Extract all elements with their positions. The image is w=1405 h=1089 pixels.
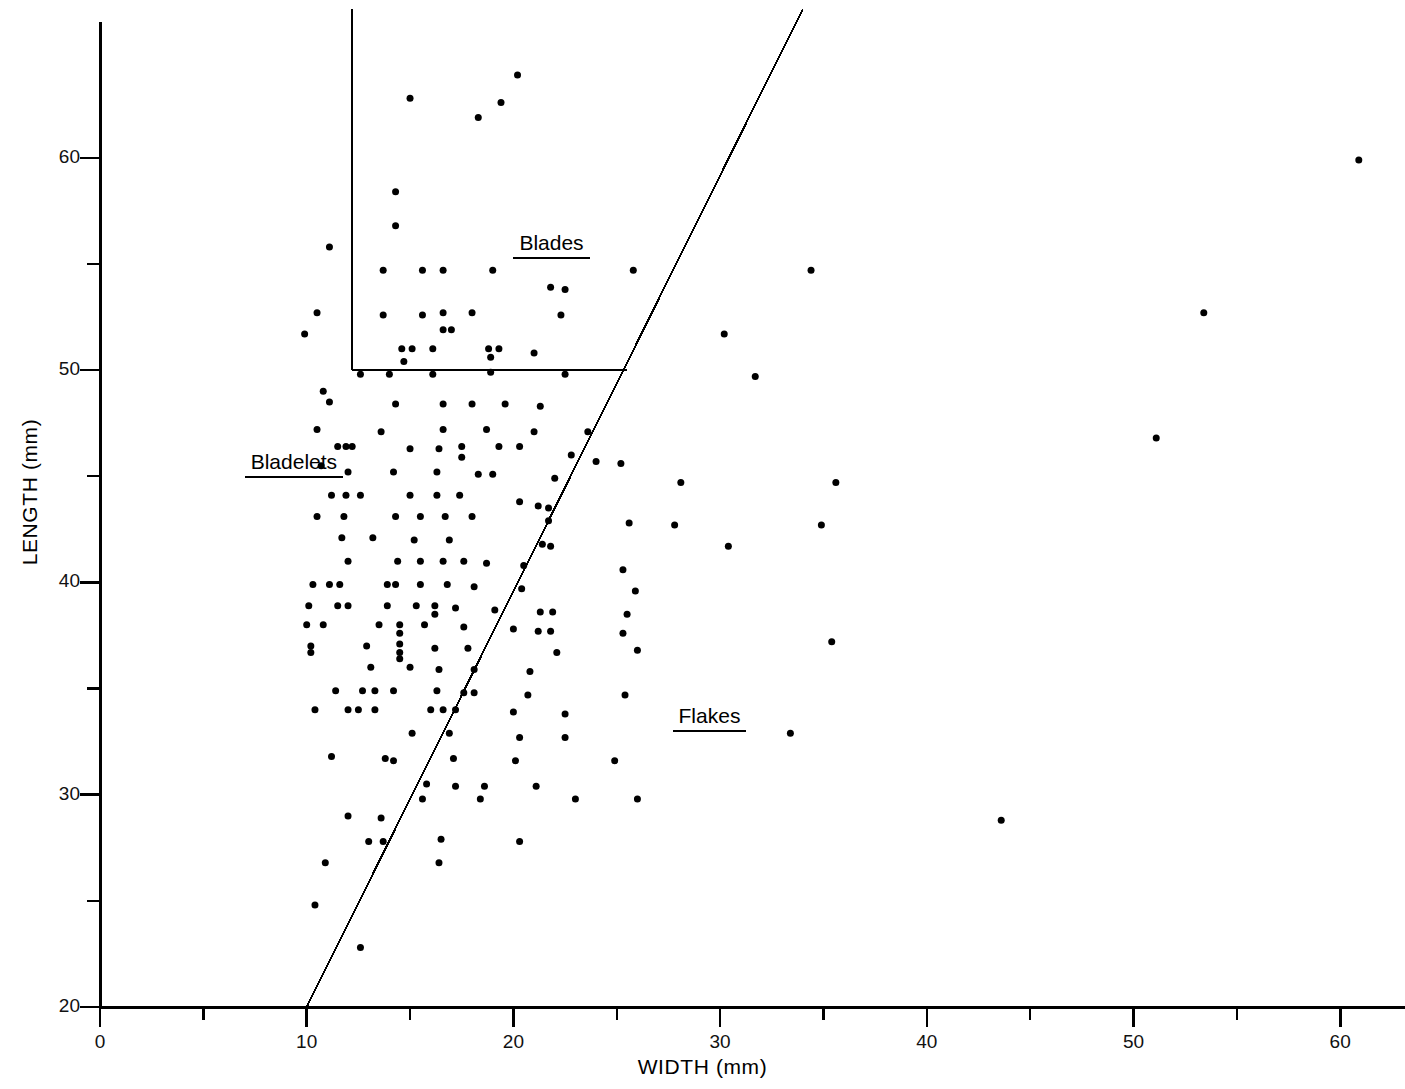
data-point [489, 267, 496, 274]
data-point [407, 492, 414, 499]
data-point [547, 284, 554, 291]
data-point [537, 403, 544, 410]
data-point [332, 687, 339, 694]
data-point [309, 581, 316, 588]
data-point [409, 345, 416, 352]
data-point [390, 469, 397, 476]
data-point [407, 664, 414, 671]
data-point [396, 649, 403, 656]
data-point [384, 581, 391, 588]
divider-lines-group [307, 9, 803, 1007]
data-point [551, 475, 558, 482]
data-point [438, 836, 445, 843]
data-point [469, 401, 476, 408]
data-point [365, 838, 372, 845]
data-point [440, 706, 447, 713]
data-point [512, 757, 519, 764]
data-point [524, 691, 531, 698]
data-point [446, 730, 453, 737]
axes-group [80, 22, 1405, 1027]
data-point [460, 623, 467, 630]
data-point [378, 428, 385, 435]
data-point [483, 560, 490, 567]
data-point [584, 428, 591, 435]
data-point [516, 498, 523, 505]
data-point [340, 513, 347, 520]
data-point [471, 666, 478, 673]
data-point [516, 734, 523, 741]
data-point [345, 558, 352, 565]
data-point [632, 587, 639, 594]
data-point [326, 243, 333, 250]
data-point [440, 309, 447, 316]
x-tick-label: 10 [267, 1031, 347, 1053]
region-label-blades: Blades [513, 231, 589, 259]
y-axis-title: LENGTH (mm) [18, 212, 42, 772]
scatter-plot-figure: 20304050600102030405060 BladesBladeletsF… [0, 0, 1405, 1089]
data-point [307, 649, 314, 656]
data-point [440, 326, 447, 333]
data-point [396, 640, 403, 647]
x-tick-label: 60 [1300, 1031, 1380, 1053]
data-point [301, 331, 308, 338]
data-point [537, 609, 544, 616]
data-point [328, 753, 335, 760]
data-point [622, 691, 629, 698]
data-point [630, 267, 637, 274]
data-point [392, 581, 399, 588]
data-point [382, 755, 389, 762]
y-tick-label: 60 [30, 146, 80, 168]
data-point [808, 267, 815, 274]
data-point [345, 812, 352, 819]
data-point [419, 311, 426, 318]
data-points-group [301, 72, 1362, 952]
data-point [549, 609, 556, 616]
data-point [349, 443, 356, 450]
data-point [539, 541, 546, 548]
data-point [533, 783, 540, 790]
data-point [311, 902, 318, 909]
data-point [342, 443, 349, 450]
data-point [1153, 435, 1160, 442]
data-point [359, 687, 366, 694]
data-point [545, 505, 552, 512]
data-point [322, 859, 329, 866]
data-point [378, 815, 385, 822]
x-tick-label: 40 [887, 1031, 967, 1053]
data-point [1355, 156, 1362, 163]
data-point [498, 99, 505, 106]
data-point [593, 458, 600, 465]
data-point [568, 452, 575, 459]
data-point [444, 581, 451, 588]
data-point [475, 471, 482, 478]
data-point [634, 647, 641, 654]
data-point [409, 730, 416, 737]
data-point [390, 757, 397, 764]
data-point [557, 311, 564, 318]
data-point [307, 643, 314, 650]
data-point [345, 469, 352, 476]
data-point [419, 795, 426, 802]
data-point [440, 558, 447, 565]
data-point [429, 371, 436, 378]
data-point [489, 471, 496, 478]
data-point [357, 492, 364, 499]
data-point [355, 706, 362, 713]
data-point [342, 492, 349, 499]
data-point [456, 492, 463, 499]
x-axis-title: WIDTH (mm) [0, 1055, 1405, 1079]
data-point [303, 621, 310, 628]
data-point [452, 783, 459, 790]
data-point [419, 267, 426, 274]
data-point [396, 621, 403, 628]
data-point [392, 188, 399, 195]
data-point [427, 706, 434, 713]
data-point [423, 781, 430, 788]
data-point [458, 454, 465, 461]
data-point [721, 331, 728, 338]
data-point [562, 711, 569, 718]
data-point [547, 543, 554, 550]
x-tick-label: 0 [60, 1031, 140, 1053]
data-point [483, 426, 490, 433]
data-point [677, 479, 684, 486]
